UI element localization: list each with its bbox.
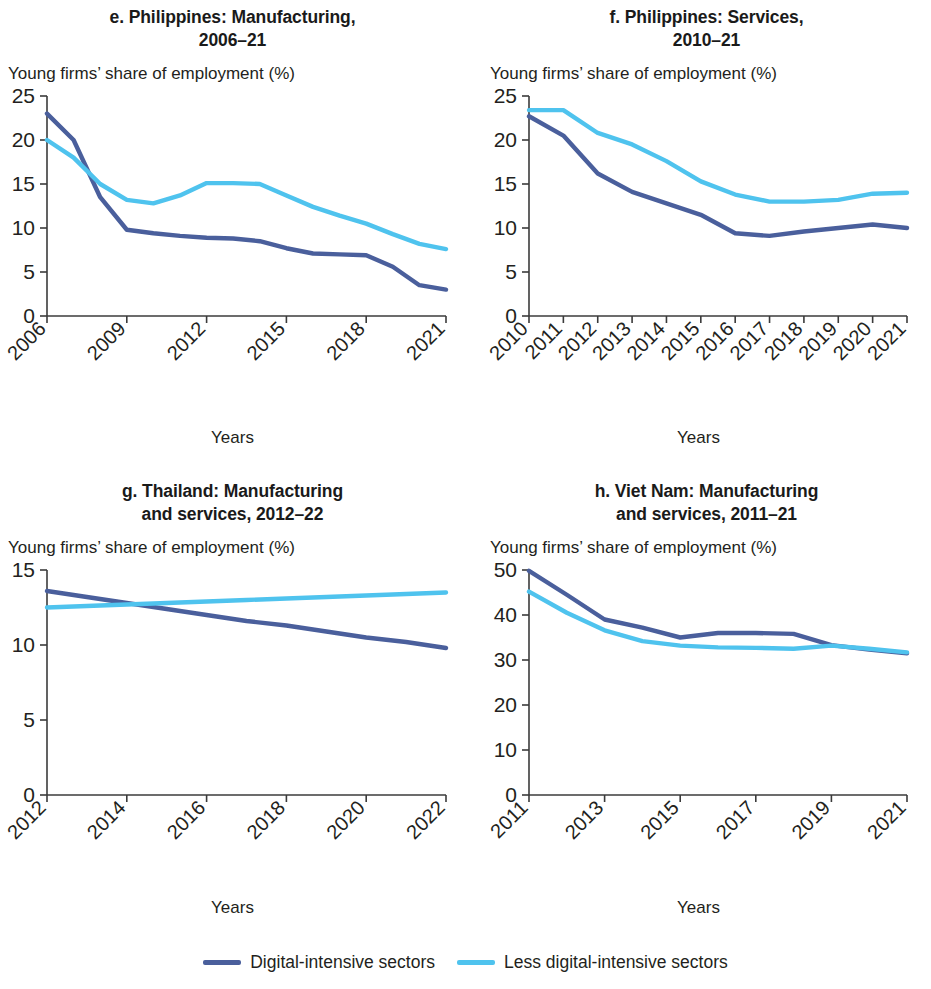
- legend-label-digital: Digital-intensive sectors: [250, 952, 435, 973]
- x-tick-label: 2021: [863, 317, 910, 364]
- x-tick-label: 2015: [242, 317, 289, 364]
- plot-area-e: 0510152025200620092012201520182021: [0, 84, 465, 374]
- chart-title-f: f. Philippines: Services, 2010–21: [466, 0, 931, 52]
- x-axis-caption-g: Years: [0, 898, 465, 918]
- series-line-less-digital: [47, 140, 446, 249]
- plot-area-f: 0510152025201020112012201320142015201620…: [466, 84, 931, 374]
- x-tick-label: 2014: [83, 796, 130, 843]
- chart-panel-h: h. Viet Nam: Manufacturing and services,…: [466, 474, 931, 944]
- x-axis-caption-e: Years: [0, 428, 465, 448]
- y-tick-label: 10: [12, 216, 35, 239]
- chart-panel-e: e. Philippines: Manufacturing, 2006–21 Y…: [0, 0, 465, 470]
- x-tick-label: 2011: [486, 796, 532, 842]
- chart-title-h: h. Viet Nam: Manufacturing and services,…: [466, 474, 931, 526]
- x-tick-label: 2010: [485, 317, 532, 364]
- x-tick-label: 2012: [554, 317, 601, 364]
- y-tick-label: 30: [494, 648, 517, 671]
- y-tick-label: 25: [494, 84, 517, 107]
- chart-title-e: e. Philippines: Manufacturing, 2006–21: [0, 0, 465, 52]
- y-axis-caption-f: Young firms’ share of employment (%): [466, 64, 931, 84]
- legend-line-icon-less-digital: [457, 960, 495, 965]
- y-tick-label: 15: [12, 558, 35, 581]
- y-tick-label: 15: [12, 172, 35, 195]
- y-tick-label: 50: [494, 558, 517, 581]
- x-tick-label: 2006: [3, 317, 50, 364]
- legend-item-less-digital-intensive-sectors: Less digital-intensive sectors: [457, 952, 728, 973]
- y-tick-label: 10: [12, 633, 35, 656]
- plot-area-h: 01020304050201120132015201720192021: [466, 558, 931, 848]
- y-tick-label: 20: [494, 128, 517, 151]
- figure-sheet: e. Philippines: Manufacturing, 2006–21 Y…: [0, 0, 931, 989]
- x-tick-label: 2015: [657, 317, 704, 364]
- series-line-less-digital: [529, 592, 907, 653]
- y-axis-caption-h: Young firms’ share of employment (%): [466, 538, 931, 558]
- legend-line-icon-digital: [203, 960, 241, 965]
- chart-title-g: g. Thailand: Manufacturing and services,…: [0, 474, 465, 526]
- legend-item-digital-intensive-sectors: Digital-intensive sectors: [203, 952, 435, 973]
- line-chart-h: 01020304050201120132015201720192021: [466, 558, 931, 848]
- legend-label-less-digital: Less digital-intensive sectors: [504, 952, 728, 973]
- x-axis-caption-h: Years: [466, 898, 931, 918]
- y-axis-caption-e: Young firms’ share of employment (%): [0, 64, 465, 84]
- x-tick-label: 2019: [787, 796, 834, 843]
- x-tick-label: 2016: [691, 317, 738, 364]
- chart-panel-f: f. Philippines: Services, 2010–21 Young …: [466, 0, 931, 470]
- line-chart-e: 0510152025200620092012201520182021: [0, 84, 465, 374]
- x-tick-label: 2012: [162, 317, 209, 364]
- y-tick-label: 5: [505, 260, 517, 283]
- y-tick-label: 10: [494, 216, 517, 239]
- figure-legend: Digital-intensive sectors Less digital-i…: [0, 952, 931, 973]
- x-tick-label: 2017: [725, 317, 772, 364]
- plot-area-g: 051015201220142016201820202022: [0, 558, 465, 848]
- x-tick-label: 2011: [520, 317, 566, 363]
- y-tick-label: 5: [23, 708, 35, 731]
- chart-panel-g: g. Thailand: Manufacturing and services,…: [0, 474, 465, 944]
- x-tick-label: 2021: [402, 317, 449, 364]
- x-tick-label: 2019: [794, 317, 841, 364]
- line-chart-f: 0510152025201020112012201320142015201620…: [466, 84, 931, 374]
- series-line-less-digital: [529, 110, 907, 202]
- x-axis-caption-f: Years: [466, 428, 931, 448]
- y-tick-label: 5: [23, 260, 35, 283]
- y-axis-caption-g: Young firms’ share of employment (%): [0, 538, 465, 558]
- y-tick-label: 20: [12, 128, 35, 151]
- x-tick-label: 2020: [322, 796, 369, 843]
- x-tick-label: 2018: [322, 317, 369, 364]
- x-tick-label: 2012: [3, 796, 50, 843]
- line-chart-g: 051015201220142016201820202022: [0, 558, 465, 848]
- y-tick-label: 15: [494, 172, 517, 195]
- x-tick-label: 2016: [162, 796, 209, 843]
- y-tick-label: 40: [494, 603, 517, 626]
- x-tick-label: 2015: [636, 796, 683, 843]
- x-tick-label: 2014: [622, 317, 669, 364]
- y-tick-label: 10: [494, 738, 517, 761]
- x-tick-label: 2017: [712, 796, 759, 843]
- x-tick-label: 2013: [560, 796, 607, 843]
- y-tick-label: 20: [494, 693, 517, 716]
- x-tick-label: 2009: [83, 317, 130, 364]
- x-tick-label: 2018: [242, 796, 289, 843]
- series-line-digital: [47, 114, 446, 290]
- x-tick-label: 2013: [588, 317, 635, 364]
- x-tick-label: 2020: [828, 317, 875, 364]
- x-tick-label: 2018: [760, 317, 807, 364]
- series-line-digital: [529, 571, 907, 653]
- x-tick-label: 2022: [402, 796, 449, 843]
- x-tick-label: 2021: [863, 796, 910, 843]
- series-line-digital: [529, 116, 907, 236]
- y-tick-label: 25: [12, 84, 35, 107]
